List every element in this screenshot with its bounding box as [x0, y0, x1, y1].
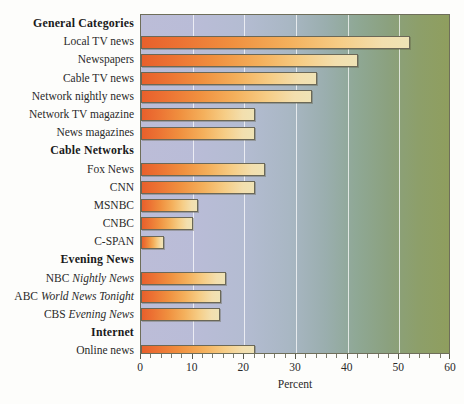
x-tick-label: 40	[341, 361, 353, 373]
label-network-name: NBC	[46, 272, 73, 284]
group-header-label: Evening News	[0, 250, 140, 268]
chart-row	[141, 197, 449, 215]
x-tick-major	[347, 354, 348, 359]
bar	[141, 108, 255, 121]
x-tick-major	[140, 354, 141, 359]
bar-category-label: NBC Nightly News	[0, 269, 140, 287]
bar	[141, 199, 198, 212]
x-tick-major	[192, 354, 193, 359]
bar-category-label: CNBC	[0, 214, 140, 232]
bar	[141, 217, 193, 230]
category-label-column: General CategoriesLocal TV newsNewspaper…	[0, 14, 140, 360]
label-program-title: World News Tonight	[41, 290, 134, 302]
chart-row	[141, 15, 449, 33]
bar	[141, 36, 410, 49]
x-tick-minor	[409, 354, 410, 358]
bar	[141, 181, 255, 194]
chart-row	[141, 51, 449, 69]
plot-area	[140, 14, 450, 354]
chart-row	[141, 288, 449, 306]
bar	[141, 236, 164, 249]
bar-category-label: CNN	[0, 178, 140, 196]
x-tick-minor	[254, 354, 255, 358]
label-program-title: Nightly News	[72, 272, 134, 284]
bar-category-label: Network TV magazine	[0, 105, 140, 123]
bar-category-label: CBS Evening News	[0, 305, 140, 323]
chart-row	[141, 161, 449, 179]
x-tick-label: 20	[238, 361, 250, 373]
chart-row	[141, 215, 449, 233]
x-tick-minor	[181, 354, 182, 358]
bar-category-label: News magazines	[0, 123, 140, 141]
x-tick-minor	[429, 354, 430, 358]
x-tick-major	[243, 354, 244, 359]
bar	[141, 54, 358, 67]
bar	[141, 90, 312, 103]
bar	[141, 290, 221, 303]
bar	[141, 72, 317, 85]
x-tick-minor	[326, 354, 327, 358]
bar-category-label: Newspapers	[0, 50, 140, 68]
chart-row	[141, 251, 449, 269]
bar-category-label: Network nightly news	[0, 87, 140, 105]
x-tick-minor	[223, 354, 224, 358]
x-tick-minor	[233, 354, 234, 358]
x-tick-minor	[419, 354, 420, 358]
x-tick-minor	[161, 354, 162, 358]
x-tick-minor	[336, 354, 337, 358]
x-tick-minor	[316, 354, 317, 358]
chart-row	[141, 324, 449, 342]
x-tick-minor	[440, 354, 441, 358]
chart-row	[141, 142, 449, 160]
x-tick-major	[449, 354, 450, 359]
x-tick-minor	[150, 354, 151, 358]
group-header-label: General Categories	[0, 14, 140, 32]
bar-category-label: ABC World News Tonight	[0, 287, 140, 305]
x-tick-label: 0	[137, 361, 143, 373]
bar-category-label: Local TV news	[0, 32, 140, 50]
x-tick-label: 50	[393, 361, 405, 373]
x-tick-minor	[388, 354, 389, 358]
bar	[141, 163, 265, 176]
bar	[141, 127, 255, 140]
bar-category-label: Online news	[0, 341, 140, 359]
bar-rows	[141, 15, 449, 353]
x-tick-minor	[274, 354, 275, 358]
bar-category-label: Fox News	[0, 160, 140, 178]
x-tick-minor	[357, 354, 358, 358]
x-tick-minor	[305, 354, 306, 358]
chart-row	[141, 33, 449, 51]
chart-row	[141, 106, 449, 124]
bar	[141, 345, 255, 354]
chart-row	[141, 179, 449, 197]
x-axis-tick-labels: 0102030405060	[140, 361, 450, 377]
bar-category-label: Cable TV news	[0, 69, 140, 87]
x-tick-label: 10	[186, 361, 198, 373]
chart-row	[141, 88, 449, 106]
chart-row	[141, 306, 449, 324]
bar	[141, 308, 220, 321]
x-tick-major	[295, 354, 296, 359]
x-tick-minor	[367, 354, 368, 358]
chart-row	[141, 342, 449, 354]
x-tick-minor	[264, 354, 265, 358]
x-tick-minor	[378, 354, 379, 358]
label-network-name: CBS	[44, 308, 69, 320]
bar	[141, 272, 226, 285]
chart-row	[141, 70, 449, 88]
x-tick-minor	[285, 354, 286, 358]
bar-category-label: C-SPAN	[0, 232, 140, 250]
group-header-label: Cable Networks	[0, 141, 140, 159]
label-program-title: Evening News	[69, 308, 134, 320]
x-tick-major	[398, 354, 399, 359]
chart-row	[141, 270, 449, 288]
chart-row	[141, 124, 449, 142]
x-tick-minor	[212, 354, 213, 358]
label-network-name: ABC	[14, 290, 41, 302]
x-tick-minor	[171, 354, 172, 358]
x-tick-minor	[202, 354, 203, 358]
bar-chart: General CategoriesLocal TV newsNewspaper…	[0, 0, 464, 404]
x-axis-title: Percent	[140, 378, 450, 390]
group-header-label: Internet	[0, 323, 140, 341]
x-tick-label: 60	[444, 361, 456, 373]
